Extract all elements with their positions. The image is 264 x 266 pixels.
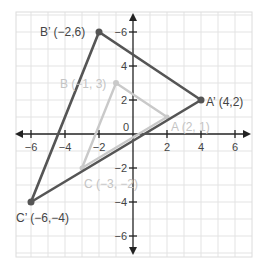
x-tick-label: 4 xyxy=(198,141,204,153)
origin-label: 0 xyxy=(123,121,129,133)
y-tick-label: −2 xyxy=(114,162,127,174)
x-tick-label: 2 xyxy=(164,141,170,153)
y-tick-label: −6 xyxy=(114,26,127,38)
point-b-prime-marker xyxy=(96,29,103,36)
y-tick-label: 4 xyxy=(121,60,127,72)
coordinate-plane: −6 −4 −2 2 4 6 −6 4 2 −2 −4 −6 0 B’ (−2,… xyxy=(0,0,264,266)
x-tick-label: −2 xyxy=(93,141,106,153)
label-a: A (2, 1) xyxy=(171,120,210,134)
x-tick-label: −6 xyxy=(25,141,38,153)
point-a-prime-marker xyxy=(198,97,205,104)
y-tick-label: −6 xyxy=(114,230,127,242)
label-a-prime: A’ (4,2) xyxy=(206,95,243,109)
x-axis-right-arrow-icon xyxy=(243,130,251,138)
y-axis-up-arrow-icon xyxy=(129,13,137,21)
y-tick-label: −4 xyxy=(114,196,127,208)
y-axis-down-arrow-icon xyxy=(129,247,137,255)
x-tick-label: −4 xyxy=(59,141,72,153)
label-c-prime: C’ (−6,−4) xyxy=(16,211,69,225)
label-b: B (−1, 3) xyxy=(60,77,106,91)
label-c: C (−3, −2) xyxy=(84,177,138,191)
label-b-prime: B’ (−2,6) xyxy=(40,25,85,39)
x-tick-label: 6 xyxy=(232,141,238,153)
y-tick-label: 2 xyxy=(121,94,127,106)
point-b-marker xyxy=(113,80,119,86)
point-c-prime-marker xyxy=(28,199,35,206)
